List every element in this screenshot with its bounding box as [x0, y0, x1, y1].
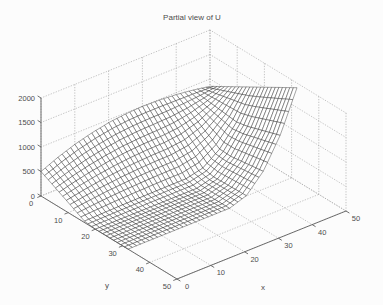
tick-mark — [245, 252, 248, 254]
tick-mark — [211, 265, 214, 267]
y-tick-label: 10 — [54, 216, 62, 225]
z-tick-label: 1000 — [18, 143, 35, 152]
surface-mesh — [41, 86, 297, 249]
tick-mark — [37, 196, 41, 198]
y-tick-label: 20 — [81, 232, 89, 241]
surface-plot-canvas: 05001000150020000102030405001020304050 P… — [0, 0, 383, 305]
tick-mark — [278, 238, 281, 240]
x-tick-label: 30 — [284, 241, 292, 250]
y-tick-label: 40 — [136, 265, 144, 274]
x-tick-label: 50 — [352, 214, 360, 223]
figure-window: 05001000150020000102030405001020304050 P… — [0, 0, 383, 305]
y-tick-label: 0 — [29, 199, 33, 208]
x-tick-label: 20 — [250, 255, 258, 264]
y-tick-label: 30 — [108, 249, 116, 258]
tick-mark — [173, 279, 177, 281]
x-tick-label: 0 — [185, 282, 189, 291]
x-tick-label: 10 — [217, 268, 225, 277]
chart-title: Partial view of U — [163, 13, 221, 22]
tick-mark — [38, 194, 41, 196]
x-tick-label: 40 — [318, 228, 326, 237]
tick-mark — [92, 229, 96, 231]
tick-mark — [119, 246, 123, 248]
tick-mark — [38, 145, 41, 147]
grid-line — [41, 30, 210, 98]
tick-mark — [177, 279, 180, 281]
y-tick-label: 50 — [163, 282, 171, 291]
tick-mark — [346, 211, 349, 213]
y-axis-label: y — [105, 281, 109, 290]
tick-mark — [146, 262, 150, 264]
z-tick-label: 1500 — [18, 118, 35, 127]
z-tick-label: 2000 — [18, 94, 35, 103]
axis-line — [177, 211, 346, 279]
x-axis-label: x — [261, 283, 265, 292]
tick-mark — [38, 120, 41, 122]
tick-mark — [65, 213, 69, 215]
tick-mark — [38, 169, 41, 171]
tick-mark — [312, 225, 315, 227]
tick-mark — [38, 96, 41, 98]
z-tick-label: 500 — [22, 167, 35, 176]
